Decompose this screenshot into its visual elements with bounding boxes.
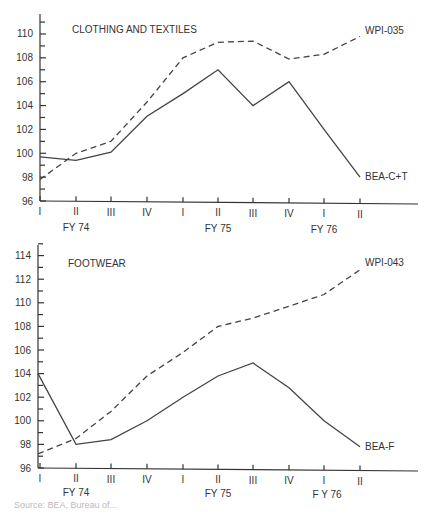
- series-label: WPI-035: [365, 25, 404, 36]
- chart-title: FOOTWEAR: [68, 258, 126, 269]
- x-tick-label: II: [73, 206, 79, 217]
- y-tick-label: 102: [14, 392, 31, 403]
- y-tick-label: 98: [20, 439, 32, 450]
- y-tick-label: 102: [16, 124, 33, 135]
- series-label: BEA-F: [365, 441, 394, 452]
- x-tick-label: I: [39, 206, 42, 217]
- fiscal-year-label: FY 76: [311, 224, 338, 235]
- x-axis: [38, 468, 418, 471]
- chart-clothing-textiles: 9810010210410610811096IIIIIIIVIIIIIIIVII…: [16, 14, 418, 235]
- y-tick-label: 110: [15, 297, 31, 308]
- x-tick-label: I: [323, 475, 326, 486]
- y-tick-label: 104: [14, 368, 31, 379]
- y-tick-label: 96: [20, 463, 32, 474]
- chart-canvas: 9810010210410610811096IIIIIIIVIIIIIIIVII…: [0, 0, 433, 512]
- y-tick-label: 108: [16, 52, 33, 63]
- x-tick-label: III: [249, 475, 257, 486]
- x-tick-label: IV: [284, 475, 294, 486]
- series-label: BEA-C+T: [365, 171, 408, 182]
- x-tick-label: I: [182, 207, 185, 218]
- series-line-bea-f: [38, 363, 360, 447]
- series-label: WPI-043: [365, 257, 404, 268]
- series-line-wpi-043: [38, 270, 360, 454]
- fiscal-year-label: F Y 76: [312, 489, 342, 500]
- fiscal-year-label: FY 74: [63, 222, 90, 233]
- x-tick-label: III: [249, 208, 257, 219]
- series-line-bea-c-t: [40, 70, 360, 177]
- y-tick-label: 98: [22, 172, 34, 183]
- y-tick-label: 104: [16, 100, 33, 111]
- y-tick-label: 110: [17, 28, 33, 39]
- fiscal-year-label: FY 75: [205, 223, 232, 234]
- x-tick-label: IV: [284, 208, 294, 219]
- y-tick-label: 96: [22, 196, 34, 207]
- fiscal-year-label: FY 75: [205, 488, 232, 499]
- x-tick-label: II: [73, 473, 79, 484]
- fiscal-year-label: FY 74: [63, 487, 90, 498]
- x-axis: [40, 201, 418, 204]
- y-tick-label: 112: [15, 274, 31, 285]
- x-tick-label: IV: [142, 207, 152, 218]
- x-tick-label: II: [215, 207, 221, 218]
- y-tick-label: 106: [16, 76, 33, 87]
- x-tick-label: IV: [142, 474, 152, 485]
- x-tick-label: II: [357, 476, 363, 487]
- y-tick-label: 114: [15, 250, 31, 261]
- y-tick-label: 108: [14, 321, 31, 332]
- source-note: Source: BEA, Bureau of...: [14, 500, 117, 510]
- y-tick-label: 106: [14, 345, 31, 356]
- x-tick-label: I: [182, 474, 185, 485]
- y-tick-label: 100: [16, 148, 33, 159]
- x-tick-label: III: [107, 474, 115, 485]
- y-tick-label: 100: [14, 415, 31, 426]
- chart-title: CLOTHING AND TEXTILES: [72, 24, 197, 35]
- x-tick-label: I: [39, 473, 42, 484]
- x-tick-label: I: [323, 208, 326, 219]
- chart-footwear: 9810010210410610811011211496IIIIIIIVIIII…: [14, 244, 418, 500]
- x-tick-label: III: [107, 207, 115, 218]
- x-tick-label: II: [357, 209, 363, 220]
- x-tick-label: II: [215, 474, 221, 485]
